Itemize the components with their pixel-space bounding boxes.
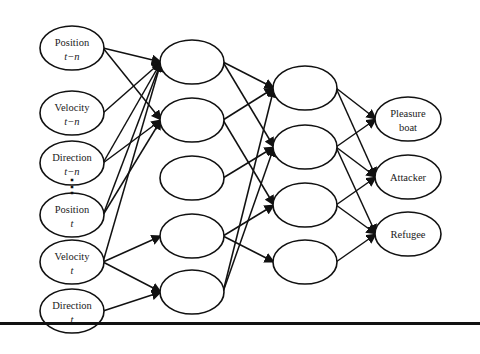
hidden2-node-h2c bbox=[273, 183, 337, 227]
edge-h1d-to-h2d bbox=[223, 236, 274, 262]
node-ellipse bbox=[160, 98, 224, 142]
node-sublabel: t−n bbox=[64, 116, 79, 127]
hidden2-node-h2a bbox=[273, 66, 337, 110]
hidden1-node-h1c bbox=[160, 156, 224, 200]
node-ellipse bbox=[273, 66, 337, 110]
input-node-pos_t: Positiont bbox=[40, 193, 104, 237]
hidden1-node-h1b bbox=[160, 98, 224, 142]
edge-h1b-to-h2a bbox=[223, 88, 274, 120]
node-label: Pleasure bbox=[390, 108, 426, 119]
node-ellipse bbox=[160, 214, 224, 258]
node-label: Attacker bbox=[390, 172, 427, 183]
hidden1-node-h1d bbox=[160, 214, 224, 258]
node-ellipse bbox=[160, 156, 224, 200]
edge-dir_t-to-h1e bbox=[103, 292, 161, 311]
node-ellipse bbox=[160, 40, 224, 84]
input-node-vel_t: Velocityt bbox=[40, 240, 104, 284]
node-label: Velocity bbox=[55, 102, 91, 113]
node-ellipse bbox=[40, 289, 104, 333]
node-label: Refugee bbox=[391, 229, 426, 240]
node-ellipse bbox=[273, 125, 337, 169]
input-node-pos_tn: Positiont−n bbox=[40, 26, 104, 70]
output-node-o_attacker: Attacker bbox=[375, 155, 441, 199]
edge-h1c-to-h2b bbox=[223, 147, 274, 178]
edge-pos_t-to-h1b bbox=[103, 120, 161, 215]
edge-h2c-to-o_attacker bbox=[336, 177, 376, 205]
bottom-rule bbox=[0, 322, 480, 325]
output-node-o_pleasure: Pleasureboat bbox=[375, 97, 441, 141]
edge-h2d-to-o_refugee bbox=[336, 234, 376, 262]
node-label: Direction bbox=[52, 152, 92, 163]
input-node-dir_t: Directiont bbox=[40, 289, 104, 333]
node-ellipse bbox=[375, 97, 441, 141]
node-ellipse bbox=[273, 183, 337, 227]
hidden2-node-h2d bbox=[273, 240, 337, 284]
edge-dir_tn-to-h1a bbox=[103, 62, 161, 163]
edge-h2b-to-o_pleasure bbox=[336, 119, 376, 147]
node-ellipse bbox=[160, 270, 224, 314]
input-node-vel_tn: Velocityt−n bbox=[40, 91, 104, 135]
node-label: Position bbox=[55, 37, 90, 48]
edge-h1e-to-h2b bbox=[223, 147, 274, 292]
node-ellipse bbox=[40, 26, 104, 70]
node-sublabel: t−n bbox=[64, 51, 79, 62]
edge-vel_t-to-h1e bbox=[103, 262, 161, 292]
hidden2-node-h2b bbox=[273, 125, 337, 169]
output-node-o_refugee: Refugee bbox=[375, 212, 441, 256]
node-label: Position bbox=[55, 204, 90, 215]
hidden1-node-h1a bbox=[160, 40, 224, 84]
node-label: Direction bbox=[52, 300, 92, 311]
edge-vel_tn-to-h1a bbox=[103, 62, 161, 113]
edge-h1e-to-h2a bbox=[223, 88, 274, 292]
edge-dir_tn-to-h1b bbox=[103, 120, 161, 163]
edge-h2a-to-o_pleasure bbox=[336, 88, 376, 119]
node-ellipse bbox=[40, 91, 104, 135]
node-sublabel: boat bbox=[399, 122, 417, 133]
hidden1-node-h1e bbox=[160, 270, 224, 314]
node-label: Velocity bbox=[55, 251, 91, 262]
input-ellipsis: ⋮ bbox=[63, 176, 81, 196]
network-nodes: Positiont−nVelocityt−nDirectiont−nPositi… bbox=[40, 26, 441, 333]
edge-vel_t-to-h1a bbox=[103, 62, 161, 262]
node-ellipse bbox=[40, 240, 104, 284]
neural-network-diagram: Positiont−nVelocityt−nDirectiont−nPositi… bbox=[0, 0, 480, 354]
edge-vel_t-to-h1d bbox=[103, 236, 161, 262]
node-ellipse bbox=[273, 240, 337, 284]
node-ellipse bbox=[40, 193, 104, 237]
